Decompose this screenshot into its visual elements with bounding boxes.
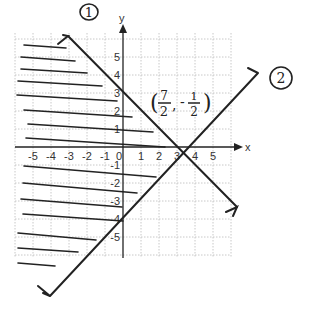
svg-text:): ) [203, 90, 212, 115]
line-1-tag: 1 [80, 4, 98, 20]
y-axis-arrow-icon [119, 24, 127, 33]
svg-text:7: 7 [160, 89, 168, 103]
svg-text:-2: -2 [110, 177, 120, 189]
svg-text:-3: -3 [64, 150, 74, 162]
svg-text:-5: -5 [110, 231, 120, 243]
svg-text:2: 2 [277, 70, 286, 86]
svg-text:(: ( [150, 90, 159, 115]
svg-text:4: 4 [192, 150, 198, 162]
svg-text:2: 2 [156, 150, 162, 162]
svg-text:,: , [172, 97, 176, 113]
svg-text:-3: -3 [110, 195, 120, 207]
svg-text:1: 1 [138, 150, 144, 162]
line-2-arrow-start-icon [38, 286, 50, 296]
svg-text:-2: -2 [82, 150, 92, 162]
y-axis-label: y [119, 12, 125, 24]
svg-text:1: 1 [85, 5, 93, 20]
svg-text:5: 5 [210, 150, 216, 162]
svg-text:2: 2 [160, 104, 168, 119]
svg-text:-1: -1 [110, 159, 120, 171]
line-2-tag: 2 [270, 67, 292, 89]
intersection-point-label: ( 7 2 , - 1 2 ) [150, 89, 212, 119]
axes [15, 28, 236, 258]
svg-text:-: - [180, 94, 185, 110]
svg-text:4: 4 [114, 69, 120, 81]
graph-canvas: x y -5 -4 -3 -2 -1 0 1 2 3 4 5 5 4 3 2 1… [0, 0, 315, 310]
x-axis-label: x [245, 141, 251, 153]
x-axis-arrow-icon [234, 143, 243, 151]
svg-text:5: 5 [114, 51, 120, 63]
svg-text:-4: -4 [46, 150, 56, 162]
line-2 [38, 68, 258, 296]
line-2-arrow-end-icon [248, 68, 258, 73]
svg-text:-5: -5 [28, 150, 38, 162]
svg-text:-1: -1 [100, 150, 110, 162]
svg-text:2: 2 [190, 105, 198, 119]
svg-text:1: 1 [191, 90, 198, 103]
